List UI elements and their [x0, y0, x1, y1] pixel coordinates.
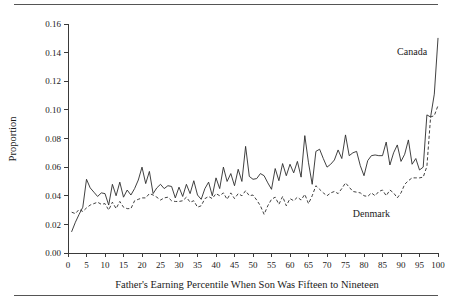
x-axis-tick-label: 40 — [212, 260, 222, 270]
y-axis-tick-label: 0.12 — [45, 76, 61, 86]
x-axis-tick-label: 45 — [230, 260, 240, 270]
x-axis-tick-label: 65 — [304, 260, 314, 270]
x-axis-tick-label: 50 — [249, 260, 259, 270]
y-axis-tick-label: 0.06 — [45, 162, 61, 172]
series-line-canada — [72, 38, 438, 231]
y-axis-tick-label: 0.04 — [45, 191, 61, 201]
y-axis: 0.000.020.040.060.080.100.120.140.16 — [45, 19, 68, 258]
y-axis-tick-label: 0.08 — [45, 134, 61, 144]
y-axis-tick-label: 0.16 — [45, 19, 61, 29]
y-axis-tick-label: 0.02 — [45, 220, 61, 230]
x-axis-tick-label: 20 — [138, 260, 148, 270]
x-axis-tick-label: 5 — [84, 260, 89, 270]
y-axis-tick-label: 0.00 — [45, 248, 61, 258]
x-axis-tick-label: 75 — [341, 260, 351, 270]
x-axis-tick-label: 80 — [360, 260, 370, 270]
data-series-group — [72, 38, 438, 231]
y-axis-tick-label: 0.14 — [45, 48, 61, 58]
line-chart: 0.000.020.040.060.080.100.120.140.16 051… — [0, 0, 451, 306]
x-axis-tick-label: 85 — [378, 260, 388, 270]
x-axis-tick-label: 70 — [323, 260, 333, 270]
x-axis-tick-label: 95 — [415, 260, 425, 270]
x-axis-tick-label: 90 — [397, 260, 407, 270]
series-label-canada: Canada — [397, 46, 428, 57]
series-annotations: CanadaDenmark — [353, 46, 428, 218]
x-axis-tick-label: 60 — [286, 260, 296, 270]
x-axis-tick-label: 30 — [175, 260, 185, 270]
x-axis-tick-label: 100 — [431, 260, 445, 270]
x-axis-title: Father's Earning Percentile When Son Was… — [115, 279, 379, 290]
figure-container: 0.000.020.040.060.080.100.120.140.16 051… — [0, 0, 451, 306]
y-axis-title: Proportion — [7, 116, 18, 162]
series-line-denmark — [72, 106, 438, 215]
x-axis-tick-label: 55 — [267, 260, 277, 270]
x-axis-tick-label: 35 — [193, 260, 203, 270]
x-axis-tick-label: 15 — [119, 260, 129, 270]
x-axis-tick-label: 10 — [101, 260, 111, 270]
series-label-denmark: Denmark — [353, 208, 390, 219]
y-axis-tick-label: 0.10 — [45, 105, 61, 115]
x-axis-tick-label: 25 — [156, 260, 166, 270]
x-axis: 0510152025303540455055606570758085909510… — [66, 253, 446, 270]
x-axis-tick-label: 0 — [66, 260, 71, 270]
